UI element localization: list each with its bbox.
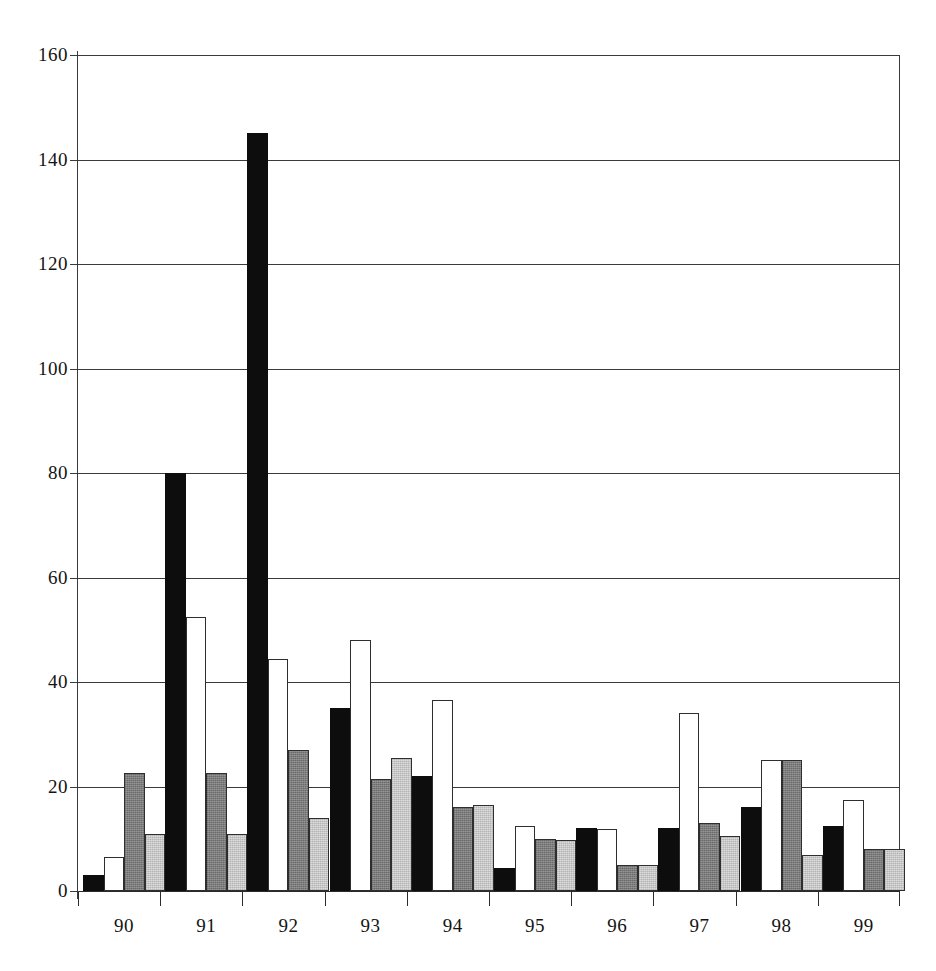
bar-99-series-1 (823, 826, 844, 891)
x-tick-mark (489, 892, 490, 906)
bar-99-series-2 (843, 800, 864, 891)
bar-92-series-1 (247, 133, 268, 891)
bar-93-series-4 (391, 758, 412, 891)
y-tick-mark (70, 578, 79, 579)
bar-95-series-3 (535, 839, 556, 891)
y-tick-mark (70, 787, 79, 788)
gridline (78, 55, 900, 56)
bar-96-series-4 (638, 865, 659, 891)
bar-91-series-1 (165, 473, 186, 891)
x-tick-mark (242, 892, 243, 906)
bar-chart: 020406080100120140160 909192939495969798… (0, 0, 936, 971)
bar-96-series-1 (576, 828, 597, 891)
x-tick-label-90: 90 (94, 916, 154, 936)
bar-92-series-2 (268, 659, 289, 892)
x-tick-label-94: 94 (423, 916, 483, 936)
x-tick-label-95: 95 (505, 916, 565, 936)
y-tick-mark (70, 369, 79, 370)
bar-92-series-3 (288, 750, 309, 891)
x-tick-mark (160, 892, 161, 906)
y-tick-mark (70, 891, 79, 892)
x-tick-label-96: 96 (587, 916, 647, 936)
bar-93-series-1 (330, 708, 351, 891)
x-tick-label-93: 93 (341, 916, 401, 936)
gridline (78, 369, 900, 370)
y-tick-label: 60 (6, 568, 68, 587)
bar-91-series-3 (206, 773, 227, 891)
bar-96-series-3 (617, 865, 638, 891)
x-tick-mark (78, 892, 79, 906)
y-tick-mark (70, 682, 79, 683)
y-axis-labels: 020406080100120140160 (0, 0, 68, 971)
gridline (78, 160, 900, 161)
bar-97-series-4 (720, 836, 741, 891)
bar-90-series-1 (83, 875, 104, 891)
bar-98-series-2 (761, 760, 782, 891)
y-tick-label: 20 (6, 777, 68, 796)
bar-95-series-2 (515, 826, 536, 891)
y-tick-label: 140 (6, 150, 68, 169)
y-tick-label: 120 (6, 254, 68, 273)
y-tick-mark (70, 55, 79, 56)
x-tick-label-99: 99 (834, 916, 894, 936)
bar-95-series-1 (494, 868, 515, 892)
bar-93-series-3 (371, 779, 392, 891)
gridline (78, 264, 900, 265)
x-tick-mark (407, 892, 408, 906)
bar-98-series-1 (741, 807, 762, 891)
bar-96-series-2 (597, 829, 618, 891)
x-tick-mark (899, 892, 900, 906)
bar-94-series-1 (412, 776, 433, 891)
gridline (78, 578, 900, 579)
x-tick-mark (325, 892, 326, 906)
x-tick-label-91: 91 (176, 916, 236, 936)
x-tick-mark (736, 892, 737, 906)
bar-97-series-2 (679, 713, 700, 891)
bar-95-series-4 (556, 840, 577, 891)
bar-94-series-2 (432, 700, 453, 891)
bar-91-series-2 (186, 617, 207, 891)
x-tick-mark (653, 892, 654, 906)
bar-98-series-4 (802, 855, 823, 891)
bar-99-series-4 (884, 849, 905, 891)
y-tick-label: 0 (6, 881, 68, 900)
y-tick-mark (70, 473, 79, 474)
y-tick-label: 40 (6, 672, 68, 691)
x-tick-label-98: 98 (752, 916, 812, 936)
x-tick-label-92: 92 (258, 916, 318, 936)
bar-90-series-4 (145, 834, 166, 891)
bar-99-series-3 (864, 849, 885, 891)
gridline (78, 473, 900, 474)
x-tick-mark (571, 892, 572, 906)
x-tick-mark (818, 892, 819, 906)
bar-98-series-3 (782, 760, 803, 891)
plot-area (78, 55, 900, 891)
bar-94-series-4 (473, 805, 494, 891)
bar-94-series-3 (453, 807, 474, 891)
y-tick-mark (70, 160, 79, 161)
bar-97-series-3 (699, 823, 720, 891)
y-tick-mark (70, 264, 79, 265)
x-tick-label-97: 97 (669, 916, 729, 936)
bar-91-series-4 (227, 834, 248, 891)
bar-93-series-2 (350, 640, 371, 891)
y-tick-label: 100 (6, 359, 68, 378)
bar-90-series-2 (104, 857, 125, 891)
y-tick-label: 160 (6, 45, 68, 64)
bar-90-series-3 (124, 773, 145, 891)
y-tick-label: 80 (6, 463, 68, 482)
bar-97-series-1 (658, 828, 679, 891)
bar-92-series-4 (309, 818, 330, 891)
